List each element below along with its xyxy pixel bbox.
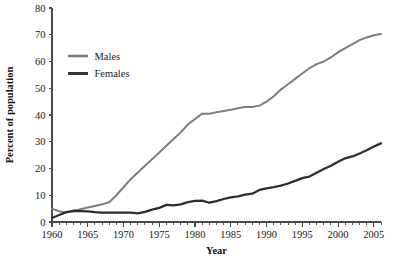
x-tick-label: 1965: [77, 229, 98, 240]
y-tick-label: 30: [35, 136, 46, 147]
y-axis-tick-labels: 01020304050607080: [35, 3, 46, 228]
y-tick-label: 0: [40, 217, 45, 228]
y-tick-label: 50: [35, 83, 46, 94]
x-tick-label: 1995: [292, 229, 313, 240]
plot-axes: [52, 8, 381, 222]
y-tick-label: 70: [35, 29, 46, 40]
x-axis-title: Year: [206, 245, 227, 256]
y-tick-label: 60: [35, 56, 46, 67]
chart-legend: MalesFemales: [68, 51, 130, 80]
x-tick-label: 2000: [328, 229, 349, 240]
y-axis-title: Percent of population: [4, 67, 15, 164]
series-line-females: [52, 143, 381, 218]
x-tick-label: 1970: [113, 229, 134, 240]
x-axis-tick-labels: 1960196519701975198019851990199520002005: [42, 229, 385, 240]
y-tick-label: 10: [35, 190, 46, 201]
x-axis-major-ticks: [52, 222, 374, 227]
x-tick-label: 1960: [42, 229, 63, 240]
y-tick-label: 40: [35, 110, 46, 121]
x-tick-label: 1975: [149, 229, 170, 240]
legend-label-females: Females: [95, 68, 130, 79]
y-tick-label: 80: [35, 3, 46, 14]
chart-figure: 01020304050607080 1960196519701975198019…: [0, 0, 404, 262]
x-tick-label: 2005: [363, 229, 384, 240]
x-tick-label: 1980: [185, 229, 206, 240]
line-chart: 01020304050607080 1960196519701975198019…: [0, 0, 404, 262]
y-tick-label: 20: [35, 163, 46, 174]
x-tick-label: 1990: [256, 229, 277, 240]
x-tick-label: 1985: [220, 229, 241, 240]
legend-label-males: Males: [95, 51, 121, 62]
